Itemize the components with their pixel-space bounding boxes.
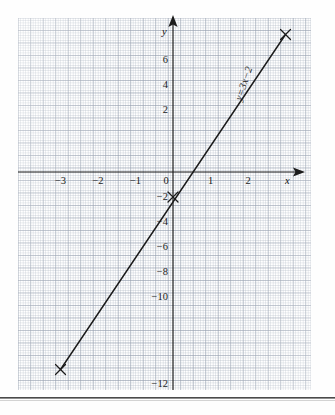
- x-tick-label-neg3: −3: [55, 176, 66, 187]
- x-tick-label-2: 2: [245, 176, 250, 187]
- x-tick-label-neg1: −1: [130, 176, 141, 187]
- figure-page: −3 −2 −1 0 1 2 6 4 2 −2 −4 −6 −8 −10 −12…: [0, 0, 335, 415]
- bottom-rule: [0, 397, 335, 399]
- y-axis-name: y: [162, 27, 167, 38]
- point-marker-3-7: [281, 30, 291, 40]
- point-marker-neg3-neg11: [56, 365, 66, 375]
- bottom-rule-shadow: [0, 400, 335, 401]
- y-tick-label-6: 6: [163, 54, 168, 65]
- y-tick-label-neg8: −8: [157, 267, 168, 278]
- y-tick-label-4: 4: [163, 79, 168, 90]
- y-tick-label-neg12: −12: [152, 379, 168, 390]
- x-tick-label-neg2: −2: [92, 176, 103, 187]
- x-tick-label-1: 1: [208, 176, 213, 187]
- x-tick-label-0: 0: [163, 176, 168, 187]
- y-tick-label-2: 2: [163, 104, 168, 115]
- y-tick-label-neg10: −10: [152, 292, 168, 303]
- y-tick-label-neg6: −6: [157, 242, 168, 253]
- x-axis-name: x: [285, 176, 290, 187]
- y-tick-label-neg4: −4: [157, 217, 168, 228]
- y-tick-label-neg2: −2: [157, 192, 168, 203]
